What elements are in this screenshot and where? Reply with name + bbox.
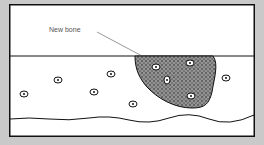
cell-icon: [152, 64, 160, 70]
cell-icon: [187, 93, 195, 99]
cell-icon: [90, 89, 98, 95]
cell-icon: [107, 71, 115, 77]
cell-icon: [20, 91, 28, 97]
cell-icon: [222, 75, 230, 81]
cell-icon: [164, 76, 170, 84]
cell-icon: [129, 101, 137, 107]
cell-icon: [54, 77, 62, 83]
new-bone-label: New bone: [49, 26, 81, 33]
cell-icon: [186, 60, 194, 66]
panel-border: [10, 5, 255, 137]
diagram-panel: New bone: [9, 4, 255, 137]
